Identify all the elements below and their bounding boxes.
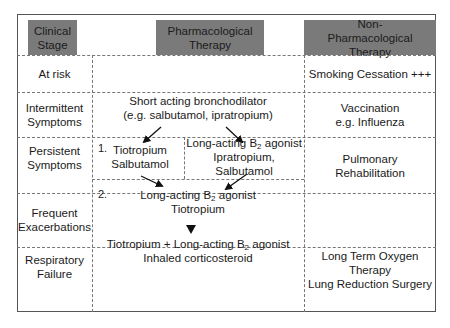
down-arrow-icon: [186, 225, 196, 234]
flow-arrows: [0, 0, 450, 328]
arrow-icon: [141, 127, 247, 189]
